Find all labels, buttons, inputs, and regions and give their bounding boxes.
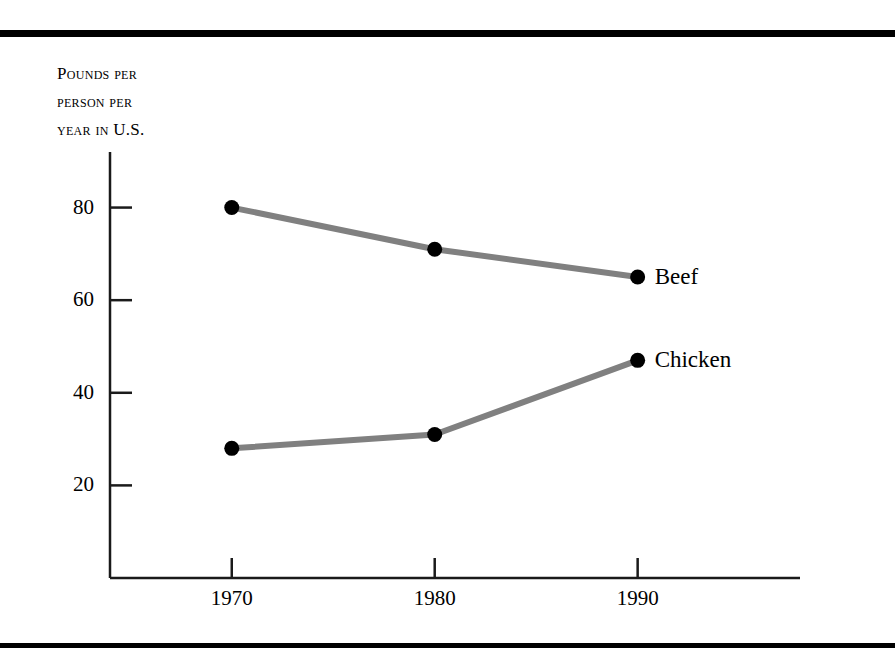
y-axis-tick-label: 80 (46, 197, 94, 218)
chart-figure: Pounds per person per year in U.S. 20406… (0, 0, 895, 667)
data-point-marker (630, 270, 645, 285)
plot-canvas (0, 0, 895, 667)
y-axis-tick-label: 60 (46, 289, 94, 310)
series-markers (224, 200, 645, 456)
x-axis-ticks (232, 558, 638, 578)
data-point-marker (224, 200, 239, 215)
data-point-marker (224, 441, 239, 456)
y-axis-tick-label: 40 (46, 382, 94, 403)
data-point-marker (427, 242, 442, 257)
x-axis-tick-label: 1990 (593, 588, 683, 609)
y-axis-ticks (110, 208, 132, 486)
series-label-chicken: Chicken (655, 348, 732, 371)
x-axis-tick-label: 1970 (187, 588, 277, 609)
x-axis-tick-label: 1980 (390, 588, 480, 609)
data-point-marker (630, 353, 645, 368)
series-label-beef: Beef (655, 265, 698, 288)
y-axis-tick-label: 20 (46, 474, 94, 495)
data-point-marker (427, 427, 442, 442)
